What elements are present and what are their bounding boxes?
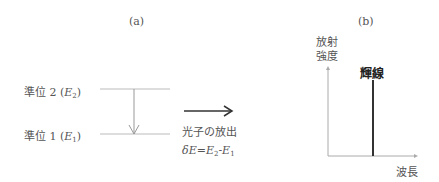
level-1-label: 準位 1 (E1) — [24, 131, 81, 146]
formula-eq: = — [197, 144, 206, 157]
emission-line-label: 輝線 — [360, 64, 384, 81]
panel-b-label: (b) — [358, 15, 374, 28]
level-2-label: 準位 2 (E2) — [24, 87, 81, 102]
level-1-prefix: 準位 1 ( — [24, 130, 64, 143]
formula-e2: E — [206, 144, 214, 157]
y-axis-arrow-icon — [326, 66, 330, 70]
energy-formula: δE=E2-E1 — [182, 145, 235, 160]
x-axis-label: 波長 — [396, 167, 418, 179]
y-axis-label-line2: 強度 — [316, 51, 338, 63]
y-axis-label-line1: 放射 — [316, 37, 338, 49]
level-1-suffix: ) — [77, 130, 81, 143]
formula-s1: 1 — [230, 150, 234, 158]
photon-emission-label: 光子の放出 — [182, 127, 237, 139]
panel-a-label: (a) — [129, 15, 144, 28]
x-axis-arrow-icon — [414, 154, 418, 158]
formula-delta: δ — [182, 144, 189, 157]
formula-lhs: E — [189, 144, 197, 157]
formula-e1: E — [222, 144, 230, 157]
level-2-prefix: 準位 2 ( — [24, 86, 64, 99]
level-2-suffix: ) — [77, 86, 81, 99]
